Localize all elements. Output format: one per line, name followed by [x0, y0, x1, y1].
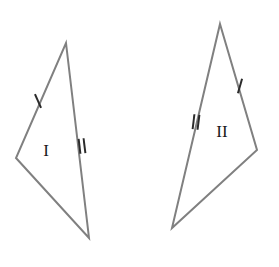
geometry-diagram: I II	[0, 0, 279, 267]
tick-stroke	[193, 114, 195, 129]
shape-one-label: I	[43, 141, 49, 160]
figure-canvas: I II	[0, 0, 279, 267]
shape-two-group: II	[172, 24, 257, 228]
tick-stroke	[84, 138, 86, 153]
shape-one-group: I	[16, 43, 89, 238]
shape-one-double-tick	[79, 138, 86, 154]
shape-two-label: II	[216, 122, 228, 141]
shape-two-outline	[172, 24, 257, 228]
